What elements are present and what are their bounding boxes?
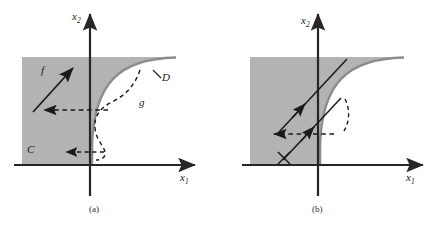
shaded-region-a (22, 57, 174, 165)
dashed-arc-b (344, 99, 349, 131)
region-label-c: C (27, 143, 34, 155)
diagram-canvas (0, 0, 442, 227)
shaded-region-b (250, 57, 402, 165)
panel-a (14, 14, 195, 196)
axis-x-label-b: x1 (406, 171, 415, 186)
leader-line-d-a (153, 70, 161, 78)
vector-field-label-f: f (41, 64, 44, 76)
region-label-d: D (162, 71, 170, 83)
panel-caption-a: (a) (89, 204, 99, 214)
axis-y-label-a: x2 (72, 10, 81, 25)
curve-label-g: g (139, 96, 145, 108)
panel-caption-b: (b) (312, 204, 323, 214)
axis-y-label-b: x2 (301, 14, 310, 29)
figure-container: x2 x1 f g C D (a) x2 x1 (b) (0, 0, 442, 227)
panel-b (242, 14, 423, 196)
axis-x-label-a: x1 (180, 171, 189, 186)
